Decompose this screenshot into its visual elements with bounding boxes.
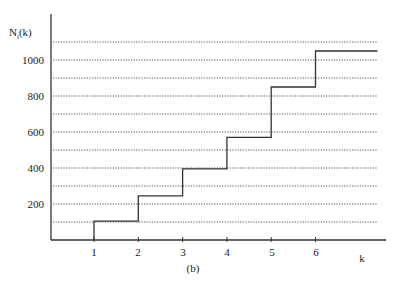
y-axis-label: Ni(k) bbox=[9, 26, 32, 41]
gridlines bbox=[53, 42, 378, 222]
y-tick-label-1000: 1000 bbox=[22, 54, 45, 66]
y-tick-label-800: 800 bbox=[28, 90, 45, 102]
x-tick-label-3: 3 bbox=[180, 246, 186, 258]
figure-caption: (b) bbox=[187, 262, 200, 275]
x-tick-label-5: 5 bbox=[269, 246, 275, 258]
x-tick-label-4: 4 bbox=[224, 246, 230, 258]
y-tick-label-400: 400 bbox=[28, 162, 45, 174]
step-series-line bbox=[94, 51, 378, 240]
x-axis-label: k bbox=[359, 252, 365, 264]
y-tick-label-600: 600 bbox=[28, 126, 45, 138]
x-tick-label-1: 1 bbox=[91, 246, 97, 258]
x-tick-label-2: 2 bbox=[135, 246, 141, 258]
step-chart: Ni(k) 1000 800 600 400 200 1 2 3 4 5 6 k… bbox=[0, 0, 396, 288]
x-tick-label-6: 6 bbox=[313, 246, 319, 258]
y-tick-label-200: 200 bbox=[28, 198, 45, 210]
